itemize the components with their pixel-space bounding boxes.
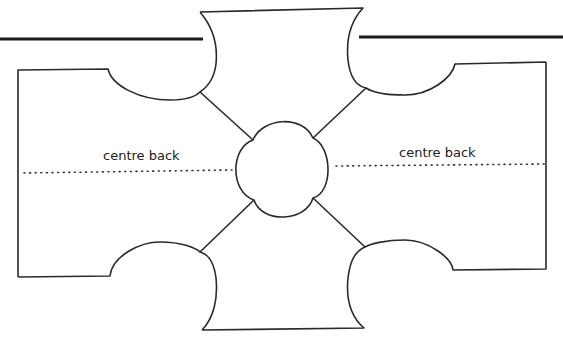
pattern-diagram: centre back centre back — [0, 0, 563, 342]
centre-back-line-left — [24, 170, 232, 173]
pattern-svg — [0, 0, 563, 342]
centre-back-label-right: centre back — [399, 145, 476, 160]
centre-back-line-right — [336, 164, 546, 166]
top-panel — [200, 8, 366, 140]
left-back-panel — [18, 69, 200, 277]
centre-back-label-left: centre back — [103, 148, 180, 163]
